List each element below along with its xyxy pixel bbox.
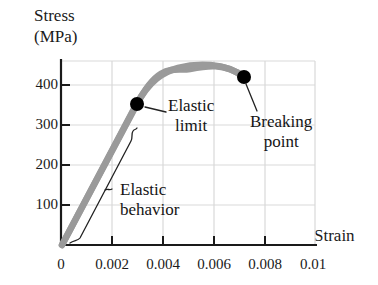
elastic-behavior-brace-notch <box>105 189 112 190</box>
elastic-limit-annotation: Elasticlimit <box>168 96 214 136</box>
breaking-point-leader-line <box>246 84 257 111</box>
elastic-limit-marker <box>130 97 144 111</box>
x-axis-ticks <box>112 236 265 245</box>
elastic-limit-label-line2: limit <box>168 116 214 136</box>
breaking-point-label-line2: point <box>250 132 312 152</box>
breaking-point-annotation: Breakingpoint <box>250 112 312 152</box>
breaking-point-marker <box>237 70 251 84</box>
elastic-behavior-label-line1: Elastic <box>120 180 166 199</box>
plot-canvas <box>0 0 378 285</box>
elastic-limit-label-line1: Elastic <box>168 96 214 115</box>
elastic-behavior-annotation: Elasticbehavior <box>120 180 179 220</box>
y-axis-ticks <box>61 85 70 205</box>
stress-strain-figure: Stress(MPa) Strain 400 300 200 100 0 0.0… <box>0 0 378 285</box>
elastic-behavior-label-line2: behavior <box>120 200 179 219</box>
breaking-point-label-line1: Breaking <box>250 112 312 131</box>
